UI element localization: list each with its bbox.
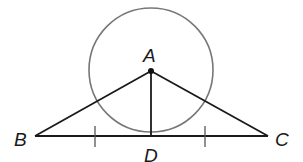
label-b: B bbox=[14, 129, 27, 150]
geometry-diagram: A B C D bbox=[0, 0, 303, 162]
segment-ac bbox=[151, 71, 268, 136]
segment-ab bbox=[35, 71, 151, 136]
point-a-dot bbox=[148, 68, 154, 74]
label-c: C bbox=[275, 129, 289, 150]
label-d: D bbox=[144, 145, 158, 162]
label-a: A bbox=[142, 45, 156, 66]
